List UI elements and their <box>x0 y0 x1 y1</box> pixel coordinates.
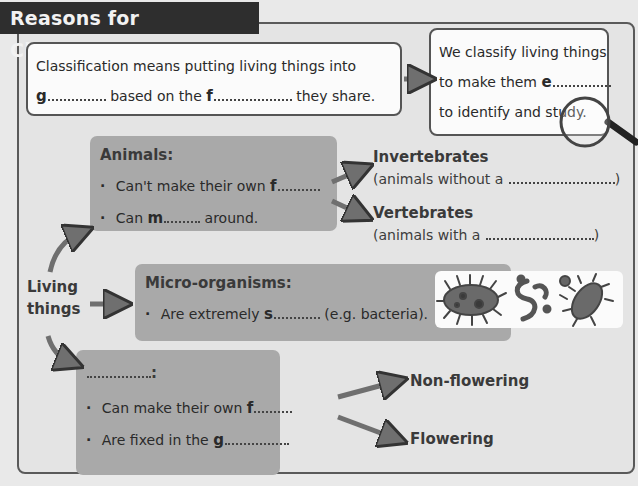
arrow-to-non-flowering <box>338 382 394 397</box>
arrow-to-vertebrates <box>332 201 360 214</box>
arrow-to-invertebrates <box>332 170 360 182</box>
diagram-arrows <box>0 0 638 486</box>
magnifier-icon <box>561 98 636 146</box>
arrow-living-to-animals <box>50 233 80 272</box>
arrow-to-flowering <box>338 417 394 438</box>
arrow-living-to-plants <box>48 336 70 362</box>
